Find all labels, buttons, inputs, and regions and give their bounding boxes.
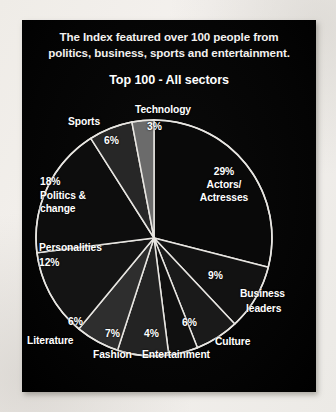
label-culture: Culture <box>215 336 250 348</box>
label-technology: Technology <box>120 104 206 116</box>
label-literature-pct: 6% <box>68 316 83 328</box>
label-actors-line-2: Actresses <box>182 192 266 204</box>
label-politics-line-2: change <box>40 203 75 215</box>
label-politics-pct: 18% <box>40 176 60 188</box>
chart-card: The Index featured over 100 people from … <box>22 20 316 392</box>
label-personalities: Personalities <box>39 242 102 254</box>
label-actors-pct: 29% <box>188 166 260 178</box>
label-actors-line-1: Actors/ <box>188 179 260 191</box>
label-literature: Literature <box>27 335 74 347</box>
label-sports: Sports <box>68 116 100 128</box>
label-entertainment-pct: 4% <box>144 328 159 340</box>
page-root: The Index featured over 100 people from … <box>0 0 336 412</box>
label-culture-pct: 6% <box>182 317 197 329</box>
label-politics-line-1: Politics & <box>40 190 86 202</box>
label-business-line-1: Business <box>240 288 285 300</box>
label-personalities-pct: 12% <box>39 257 59 269</box>
label-technology-pct: 3% <box>147 121 162 133</box>
pie-chart: Technology 3% Sports 6% 18% Politics & c… <box>22 20 316 392</box>
label-business-line-2: leaders <box>246 303 281 315</box>
label-fashion: Fashion <box>93 349 132 361</box>
label-fashion-pct: 7% <box>105 328 120 340</box>
label-business-pct: 9% <box>208 270 223 282</box>
label-sports-pct: 6% <box>104 135 119 147</box>
label-entertainment: Entertainment <box>142 349 210 361</box>
